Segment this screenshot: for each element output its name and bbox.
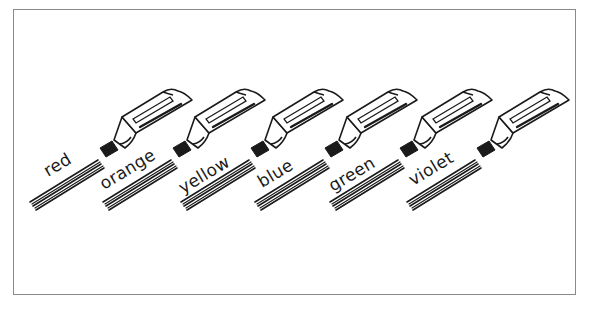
marker-unit-yellow: yellow bbox=[175, 89, 343, 210]
marker-icon bbox=[30, 89, 192, 210]
marker-icon bbox=[330, 89, 492, 210]
marker-unit-red: red bbox=[30, 89, 192, 210]
marker-unit-green: green bbox=[325, 89, 492, 210]
markers-illustration: red orange yellow blue green violet bbox=[0, 0, 589, 309]
marker-icon bbox=[407, 89, 569, 210]
marker-icon bbox=[181, 89, 343, 210]
marker-unit-violet: violet bbox=[405, 89, 569, 210]
color-label: red bbox=[40, 148, 75, 180]
